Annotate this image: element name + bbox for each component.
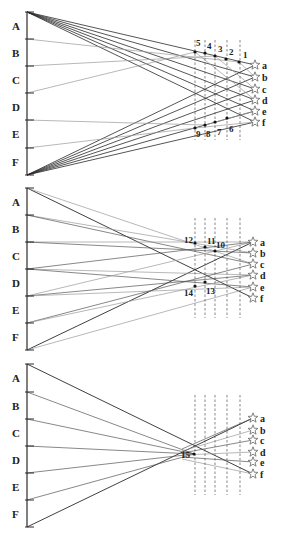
- star-icon: [248, 469, 258, 478]
- point-marker: [203, 123, 206, 126]
- target-label-f: f: [260, 469, 264, 480]
- point-marker: [192, 452, 195, 455]
- star-icon: [248, 293, 258, 302]
- source-label-c: C: [12, 74, 20, 86]
- source-label-b: B: [12, 400, 20, 412]
- source-label-d: D: [12, 277, 20, 289]
- star-icon: [248, 413, 258, 422]
- target-label-b: b: [260, 248, 266, 259]
- target-stars: abcdef: [248, 237, 266, 304]
- panel-3: ABCDEFabcdef15: [12, 364, 266, 527]
- point-label-6: 6: [229, 124, 234, 134]
- source-bar: ABCDEF: [12, 12, 34, 175]
- ray-lines: [27, 364, 253, 527]
- point-label-5: 5: [196, 38, 201, 48]
- target-label-f: f: [260, 293, 264, 304]
- target-label-c: c: [260, 435, 265, 446]
- point-label-13: 13: [206, 286, 216, 296]
- point-marker: [237, 60, 240, 63]
- source-label-a: A: [12, 196, 20, 208]
- star-icon: [250, 106, 260, 115]
- dashed-guides: [195, 218, 240, 318]
- source-label-f: F: [12, 331, 19, 343]
- ray-lines: [27, 12, 255, 175]
- source-bar: ABCDEF: [12, 188, 34, 350]
- point-marker: [225, 116, 228, 119]
- star-icon: [250, 117, 260, 126]
- point-label-12: 12: [184, 235, 194, 245]
- point-label-3: 3: [218, 44, 223, 54]
- star-icon: [248, 248, 258, 257]
- source-label-a: A: [12, 20, 20, 32]
- star-icon: [250, 95, 260, 104]
- source-bar: ABCDEF: [12, 364, 34, 527]
- target-label-e: e: [262, 106, 267, 117]
- star-icon: [250, 72, 260, 81]
- source-label-e: E: [12, 304, 19, 316]
- target-label-e: e: [260, 282, 265, 293]
- point-marker: [213, 120, 216, 123]
- ray-diagram: ABCDEFabcdef123456789ABCDEFabcdef1011121…: [0, 0, 283, 542]
- panel-1: ABCDEFabcdef123456789: [12, 12, 268, 175]
- source-label-e: E: [12, 481, 19, 493]
- star-icon: [248, 259, 258, 268]
- point-label-7: 7: [217, 127, 222, 137]
- target-label-d: d: [260, 270, 266, 281]
- star-icon: [248, 435, 258, 444]
- star-icon: [248, 457, 258, 466]
- point-label-15: 15: [181, 450, 191, 460]
- ray-lines: [27, 188, 253, 350]
- target-label-a: a: [260, 237, 265, 248]
- target-stars: abcdef: [250, 60, 268, 128]
- source-label-d: D: [12, 454, 20, 466]
- target-stars: abcdef: [248, 413, 266, 480]
- point-label-2: 2: [229, 47, 234, 57]
- source-label-f: F: [12, 156, 19, 168]
- target-label-d: d: [262, 95, 268, 106]
- point-marker: [224, 57, 227, 60]
- point-marker: [193, 50, 196, 53]
- intersection-points: 15: [181, 450, 196, 460]
- point-label-10: 10: [216, 240, 226, 250]
- star-icon: [248, 425, 258, 434]
- source-label-c: C: [12, 427, 20, 439]
- point-label-9: 9: [196, 129, 201, 139]
- point-label-14: 14: [184, 288, 194, 298]
- point-label-1: 1: [243, 50, 248, 60]
- point-marker: [203, 280, 206, 283]
- point-marker: [193, 284, 196, 287]
- target-label-a: a: [262, 60, 267, 71]
- source-label-b: B: [12, 47, 20, 59]
- point-marker: [213, 54, 216, 57]
- star-icon: [248, 270, 258, 279]
- point-label-8: 8: [206, 129, 211, 139]
- source-label-e: E: [12, 128, 19, 140]
- source-label-d: D: [12, 101, 20, 113]
- point-marker: [203, 51, 206, 54]
- source-label-c: C: [12, 250, 20, 262]
- star-icon: [248, 237, 258, 246]
- panel-2: ABCDEFabcdef1011121314: [12, 188, 266, 350]
- star-icon: [248, 447, 258, 456]
- point-marker: [193, 241, 196, 244]
- source-label-b: B: [12, 223, 20, 235]
- target-label-e: e: [260, 457, 265, 468]
- source-label-f: F: [12, 508, 19, 520]
- target-label-c: c: [262, 84, 267, 95]
- star-icon: [250, 84, 260, 93]
- star-icon: [248, 282, 258, 291]
- target-label-f: f: [262, 117, 266, 128]
- point-label-4: 4: [207, 41, 212, 51]
- target-label-c: c: [260, 259, 265, 270]
- target-label-a: a: [260, 413, 265, 424]
- point-label-11: 11: [207, 236, 216, 246]
- star-icon: [250, 60, 260, 69]
- target-label-b: b: [262, 72, 268, 83]
- source-label-a: A: [12, 372, 20, 384]
